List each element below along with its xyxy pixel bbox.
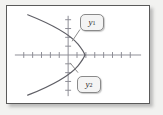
figure-container: y1 y2 — [0, 0, 163, 115]
callout-label-y2[interactable]: y2 — [77, 76, 101, 93]
calculator-screen-frame: y1 y2 — [6, 5, 150, 104]
callout-label-y1[interactable]: y1 — [80, 14, 104, 31]
callout-y2-subscript: 2 — [90, 82, 93, 88]
callout-y1-subscript: 1 — [93, 20, 96, 26]
curve-y1 — [28, 15, 85, 55]
